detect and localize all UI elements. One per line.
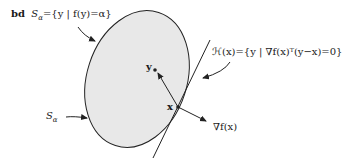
point-x-label: x bbox=[167, 102, 173, 112]
set-region-subscript: α bbox=[53, 116, 58, 124]
point-x bbox=[176, 105, 180, 109]
gradient-label: ∇f(x) bbox=[213, 122, 237, 132]
set-definition-rhs: ={y | f(y)=α} bbox=[43, 8, 112, 19]
set-label-pointer bbox=[66, 117, 87, 118]
point-y-label: y bbox=[146, 62, 152, 72]
set-region-symbol: S bbox=[46, 110, 53, 121]
set-definition-label: bd Sα={y | f(y)=α} bbox=[11, 9, 112, 22]
figure-tag: bd bbox=[11, 8, 25, 19]
hyperplane-label: ℋ(x)={y | ∇f(x)ᵀ(y−x)=0} bbox=[212, 47, 342, 57]
point-y bbox=[153, 68, 157, 72]
set-def-pointer bbox=[78, 27, 95, 41]
set-region-label: Sα bbox=[46, 111, 58, 124]
diagram-canvas bbox=[0, 0, 355, 159]
gradient-vector bbox=[178, 107, 206, 121]
hyperplane-pointer bbox=[203, 62, 230, 78]
level-set-region bbox=[68, 0, 206, 159]
